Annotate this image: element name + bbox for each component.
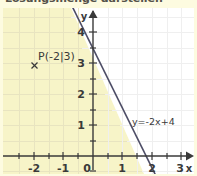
- equation-label: y=-2x+4: [132, 116, 175, 127]
- y-axis-label: y: [81, 11, 88, 22]
- y-tick-label-1: 1: [77, 119, 85, 132]
- x-tick-label-1: 1: [118, 162, 126, 175]
- coordinate-plane-figure: Lösungsmenge darstellen: [0, 0, 197, 176]
- x-tick-label-0: 0: [83, 162, 91, 175]
- x-axis-label: x: [186, 163, 193, 174]
- graph-canvas: -2 -1 0 1 2 3 1 2 3 4 x y P(-2|3) y=-2x+…: [0, 8, 197, 176]
- point-label-p: P(-2|3): [38, 50, 75, 63]
- y-tick-label-3: 3: [77, 57, 85, 70]
- x-tick-label--1: -1: [57, 162, 69, 175]
- x-tick-label--2: -2: [28, 162, 40, 175]
- y-tick-label-4: 4: [77, 26, 85, 39]
- y-tick-label-2: 2: [77, 88, 85, 101]
- x-tick-label-2: 2: [148, 162, 156, 175]
- heading-strip: Lösungsmenge darstellen: [0, 0, 197, 8]
- page-title: Lösungsmenge darstellen: [5, 0, 163, 5]
- x-tick-label-3: 3: [176, 162, 184, 175]
